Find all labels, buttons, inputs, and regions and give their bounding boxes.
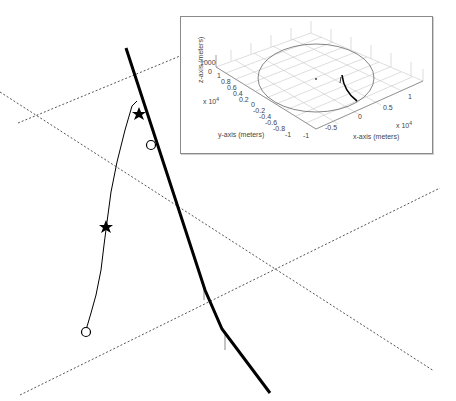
inset-z-tick: 0 bbox=[208, 68, 212, 75]
inset-x-tick: -0.5 bbox=[325, 124, 337, 131]
circle-marker-icon bbox=[147, 141, 156, 150]
inset-3d-plot: z-axis (meters) 1000 0 1 0.8 0.6 0.4 0.2… bbox=[180, 16, 433, 154]
star-marker-icon bbox=[132, 107, 146, 120]
middle-grid-line bbox=[20, 188, 440, 395]
inset-x-tick: -1 bbox=[303, 132, 309, 139]
inset-floor-grid bbox=[216, 21, 423, 129]
inset-x-exponent: x 104 bbox=[396, 121, 412, 129]
inset-y-exponent: x 104 bbox=[203, 97, 219, 105]
upper-grid-line bbox=[18, 56, 180, 123]
inset-y-tick: -1 bbox=[285, 131, 291, 138]
circle-marker-icon bbox=[82, 328, 91, 337]
inset-x-tick: 1 bbox=[408, 93, 412, 100]
inset-y-axis-label: y-axis (meters) bbox=[218, 131, 264, 138]
inset-x-tick: 0.5 bbox=[383, 104, 393, 111]
inset-z-tick: 1000 bbox=[200, 59, 216, 66]
inset-center-point bbox=[315, 78, 317, 80]
thin-trajectory bbox=[86, 101, 137, 330]
markers bbox=[82, 107, 156, 337]
inset-x-tick: 0 bbox=[358, 113, 362, 120]
inset-x-axis-label: x-axis (meters) bbox=[353, 133, 399, 140]
inset-y-tick: 0.2 bbox=[239, 96, 249, 103]
inset-y-tick: -0.8 bbox=[273, 125, 285, 132]
